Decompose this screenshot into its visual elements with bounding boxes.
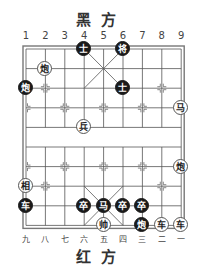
column-number: 七 xyxy=(58,233,72,244)
black-piece[interactable]: 卒 xyxy=(115,198,130,213)
column-number: 三 xyxy=(135,233,149,244)
column-number: 五 xyxy=(97,233,111,244)
column-number: 一 xyxy=(174,233,188,244)
column-number: 六 xyxy=(77,233,91,244)
black-piece[interactable]: 马 xyxy=(96,198,111,213)
column-number: 四 xyxy=(116,233,130,244)
black-piece[interactable]: 车 xyxy=(18,198,33,213)
red-side-label: 红方 xyxy=(0,245,202,266)
red-piece[interactable]: 炮 xyxy=(173,159,188,174)
red-piece[interactable]: 炮 xyxy=(37,61,52,76)
black-piece[interactable]: 将 xyxy=(115,41,130,56)
red-piece[interactable]: 马 xyxy=(173,100,188,115)
column-number: 八 xyxy=(38,233,52,244)
column-number: 二 xyxy=(155,233,169,244)
column-number: 九 xyxy=(19,233,33,244)
red-piece[interactable]: 帅 xyxy=(96,217,111,232)
black-piece[interactable]: 卒 xyxy=(76,198,91,213)
